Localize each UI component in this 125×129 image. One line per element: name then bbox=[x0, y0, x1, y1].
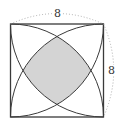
top-side-length-label: 8 bbox=[53, 8, 62, 19]
geometry-figure: 8 8 bbox=[0, 0, 125, 129]
right-side-length-label: 8 bbox=[107, 65, 116, 76]
shaded-region bbox=[23, 37, 91, 105]
